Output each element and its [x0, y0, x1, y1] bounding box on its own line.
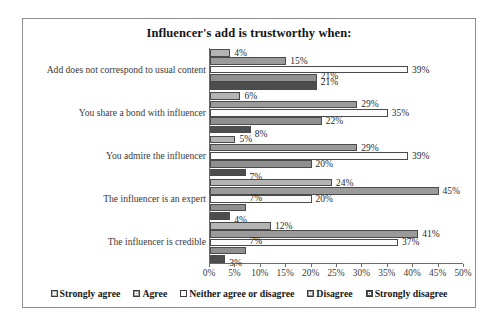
bar[interactable] — [210, 57, 286, 65]
legend-label: Disagree — [316, 288, 352, 299]
chart-title: Influencer's add is trustworthy when: — [23, 26, 475, 41]
legend-label: Agree — [142, 288, 167, 299]
category-axis-labels: Add does not correspond to usual content… — [31, 48, 206, 264]
bar[interactable] — [210, 101, 357, 109]
bar[interactable] — [210, 222, 271, 230]
bar[interactable] — [210, 212, 230, 220]
category-label: The influencer is an expert — [103, 194, 206, 204]
bar-row: 7% — [210, 204, 463, 212]
bar-row: 4% — [210, 212, 463, 220]
bar-value-label: 21% — [317, 71, 338, 81]
bar-row: 22% — [210, 117, 463, 125]
category-label: The influencer is credible — [108, 237, 206, 247]
legend-swatch-icon — [51, 290, 58, 297]
chart-legend: Strongly agreeAgreeNeither agree or disa… — [23, 288, 475, 299]
tick-label: 40% — [404, 268, 421, 278]
legend-swatch-icon — [366, 290, 373, 297]
bar-row: 24% — [210, 179, 463, 187]
bar-group: 6%29%35%22%8% — [210, 92, 463, 133]
tick-label: 30% — [353, 268, 370, 278]
bar[interactable] — [210, 126, 251, 134]
bar[interactable] — [210, 117, 322, 125]
bar-row: 39% — [210, 152, 463, 160]
tick-mark — [260, 264, 261, 267]
legend-swatch-icon — [180, 290, 187, 297]
tick-mark — [234, 264, 235, 267]
tick-label: 0% — [203, 268, 216, 278]
bar-group: 12%41%37%7%3% — [210, 222, 463, 263]
x-axis-ticks: 0%5%10%15%20%25%30%35%40%45%50% — [209, 264, 463, 280]
bar[interactable] — [210, 247, 246, 255]
tick-mark — [311, 264, 312, 267]
legend-item[interactable]: Strongly disagree — [366, 288, 448, 299]
bar-row: 29% — [210, 101, 463, 109]
tick-mark — [336, 264, 337, 267]
tick-label: 35% — [378, 268, 395, 278]
bar[interactable] — [210, 152, 408, 160]
tick-label: 45% — [429, 268, 446, 278]
tick-label: 20% — [302, 268, 319, 278]
tick-label: 5% — [228, 268, 241, 278]
legend-item[interactable]: Strongly agree — [51, 288, 121, 299]
legend-label: Strongly disagree — [375, 288, 448, 299]
bar-row: 20% — [210, 160, 463, 168]
tick-mark — [285, 264, 286, 267]
tick-label: 15% — [277, 268, 294, 278]
legend-item[interactable]: Agree — [133, 288, 167, 299]
bar-row: 21% — [210, 82, 463, 90]
bar-row: 6% — [210, 92, 463, 100]
bar-value-label: 7% — [246, 236, 263, 246]
bar[interactable] — [210, 160, 312, 168]
bar[interactable] — [210, 204, 246, 212]
category-label: Add does not correspond to usual content — [47, 65, 206, 75]
tick-label: 50% — [454, 268, 471, 278]
bar[interactable] — [210, 144, 357, 152]
tick-mark — [387, 264, 388, 267]
bar[interactable] — [210, 230, 418, 238]
plot-area: 4%15%39%21%21%6%29%35%22%8%5%29%39%20%7%… — [209, 48, 463, 264]
legend-item[interactable]: Neither agree or disagree — [180, 288, 294, 299]
chart-frame: Influencer's add is trustworthy when: Ad… — [22, 18, 476, 308]
category-label: You admire the influencer — [106, 151, 206, 161]
bar-row: 7% — [210, 247, 463, 255]
bar[interactable] — [210, 255, 225, 263]
legend-swatch-icon — [133, 290, 140, 297]
tick-mark — [209, 264, 210, 267]
bar[interactable] — [210, 136, 235, 144]
bar-row: 5% — [210, 136, 463, 144]
bar[interactable] — [210, 109, 388, 117]
bar-group: 5%29%39%20%7% — [210, 136, 463, 177]
bar[interactable] — [210, 66, 408, 74]
bar-row: 4% — [210, 49, 463, 57]
legend-label: Neither agree or disagree — [189, 288, 294, 299]
tick-label: 25% — [327, 268, 344, 278]
bar-row: 8% — [210, 126, 463, 134]
bar[interactable] — [210, 239, 398, 247]
tick-label: 10% — [251, 268, 268, 278]
bar[interactable] — [210, 49, 230, 57]
bar-value-label: 7% — [246, 193, 263, 203]
bar[interactable] — [210, 82, 317, 90]
tick-mark — [463, 264, 464, 267]
legend-item[interactable]: Disagree — [307, 288, 352, 299]
tick-mark — [361, 264, 362, 267]
bar[interactable] — [210, 74, 317, 82]
bar[interactable] — [210, 169, 246, 177]
legend-swatch-icon — [307, 290, 314, 297]
bar[interactable] — [210, 179, 332, 187]
category-label: You share a bond with influencer — [79, 108, 206, 118]
bar[interactable] — [210, 92, 240, 100]
legend-label: Strongly agree — [60, 288, 121, 299]
tick-mark — [438, 264, 439, 267]
bar-group: 4%15%39%21%21% — [210, 49, 463, 90]
bar-row: 7% — [210, 169, 463, 177]
bar-group: 24%45%20%7%4% — [210, 179, 463, 220]
tick-mark — [412, 264, 413, 267]
bar-row: 3% — [210, 255, 463, 263]
